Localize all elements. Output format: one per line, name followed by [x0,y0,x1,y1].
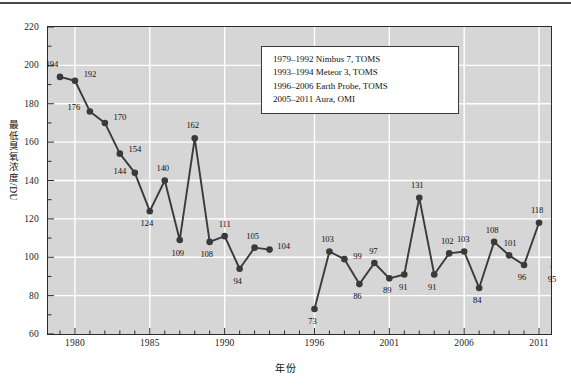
x-axis-tick-label: 2006 [454,338,474,348]
data-point-label: 105 [246,231,259,241]
legend-box: 1979–1992 Nimbus 7, TOMS 1993–1994 Meteo… [261,46,459,114]
y-axis-tick-label: 140 [24,176,39,186]
x-axis-tick-label: 1996 [305,338,325,348]
data-point-label: 101 [504,238,517,248]
data-point-label: 94 [233,276,241,286]
data-point-label: 154 [129,144,142,154]
data-point-label: 170 [114,112,127,122]
x-axis-tick-label: 2001 [379,338,399,348]
y-axis-tick-label: 180 [24,99,39,109]
data-point-label: 91 [399,282,407,292]
data-point-label: 102 [441,236,454,246]
data-point-label: 144 [114,166,127,176]
legend-entry: 1996–2006 Earth Probe, TOMS [273,80,448,93]
data-point-label: 95 [548,274,556,284]
data-point-label: 103 [321,234,334,244]
legend-entry: 2005–2011 Aura, OMI [273,93,448,106]
data-point-label: 73 [308,316,316,326]
data-point-label: 140 [156,163,169,173]
y-axis-tick-label: 220 [24,22,39,32]
data-point-label: 91 [428,282,436,292]
y-axis-tick-label: 120 [24,214,39,224]
data-point-label: 131 [411,180,424,190]
data-point-label: 86 [353,291,361,301]
data-point-label: 118 [531,205,543,215]
data-point-label: 103 [457,234,470,244]
data-point-label: 111 [219,219,231,229]
data-point-label: 124 [141,218,154,228]
y-axis-tick-label: 100 [24,252,39,262]
data-point-label: 108 [486,225,499,235]
data-point-label: 176 [68,102,81,112]
y-axis-title: 最低臭氧浓度/DU [4,120,18,201]
x-axis-tick-label: 1990 [215,338,235,348]
y-axis-tick-label: 160 [24,137,39,147]
x-axis-tick-label: 2011 [529,338,548,348]
x-axis-tick-label: 1980 [65,338,85,348]
data-point-label: 192 [84,69,97,79]
data-point-label: 162 [186,120,199,130]
x-axis-title: 年份 [0,360,571,375]
data-point-label: 97 [369,246,377,256]
legend-entry: 1993–1994 Meteor 3, TOMS [273,66,448,79]
data-point-label: 104 [277,241,290,251]
data-point-label: 194 [46,59,59,69]
data-point-label: 89 [383,285,391,295]
data-point-label: 96 [518,272,526,282]
y-axis: 最低臭氧浓度/DU 6080100120140160180200220 [0,0,47,392]
data-point-label: 108 [200,249,213,259]
y-axis-tick-label: 80 [29,291,39,301]
top-divider-rule [0,2,571,4]
chart-figure: 最低臭氧浓度/DU 6080100120140160180200220 年份 1… [0,0,571,392]
data-point-label: 99 [353,251,361,261]
x-axis-tick-label: 1985 [140,338,160,348]
data-point-label: 109 [171,248,184,258]
y-axis-tick-label: 60 [29,329,39,339]
legend-entry: 1979–1992 Nimbus 7, TOMS [273,53,448,66]
y-axis-tick-label: 200 [24,60,39,70]
data-point-label: 84 [473,295,481,305]
